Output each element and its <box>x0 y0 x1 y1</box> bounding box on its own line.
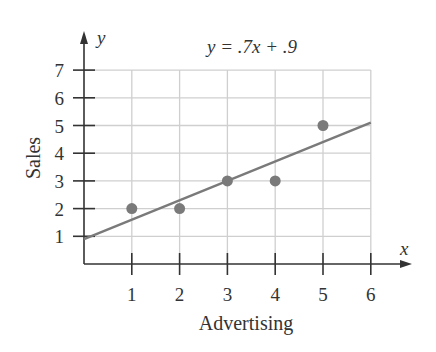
scatter-chart: 1234567123456 y = .7x + .9 y x Advertisi… <box>0 0 436 352</box>
data-point <box>270 175 281 186</box>
x-axis-label: Advertising <box>199 312 293 335</box>
y-tick-label: 1 <box>55 226 65 247</box>
grid-lines <box>84 70 371 264</box>
x-tick-label: 4 <box>270 284 280 305</box>
y-tick-label: 3 <box>55 171 65 192</box>
data-point <box>222 175 233 186</box>
x-axis-arrow-icon <box>400 260 412 268</box>
x-tick-label: 6 <box>366 284 376 305</box>
y-tick-label: 6 <box>55 88 65 109</box>
data-point <box>318 120 329 131</box>
y-tick-label: 7 <box>55 60 65 81</box>
chart-title: y = .7x + .9 <box>205 36 298 57</box>
y-axis-arrow-icon <box>80 31 88 44</box>
x-tick-label: 1 <box>127 284 137 305</box>
tick-labels: 1234567123456 <box>55 60 376 305</box>
x-tick-label: 5 <box>318 284 328 305</box>
x-tick-label: 2 <box>175 284 185 305</box>
data-point <box>174 203 185 214</box>
x-tick-label: 3 <box>223 284 233 305</box>
data-point <box>126 203 137 214</box>
y-axis-label: Sales <box>22 137 44 179</box>
x-axis-symbol: x <box>399 238 409 259</box>
y-tick-label: 4 <box>55 143 65 164</box>
y-tick-label: 2 <box>55 199 65 220</box>
y-tick-label: 5 <box>55 116 65 137</box>
y-axis-symbol: y <box>95 27 106 48</box>
